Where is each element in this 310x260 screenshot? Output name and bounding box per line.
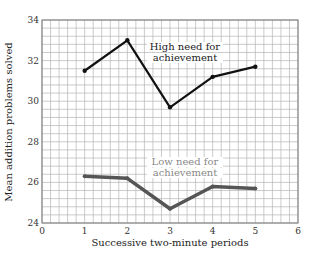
y-tick-label: 24 (28, 218, 40, 228)
series-label: achievement (153, 52, 218, 63)
x-tick-label: 3 (167, 226, 173, 236)
data-point (82, 69, 86, 73)
x-tick-label: 4 (210, 226, 216, 236)
data-point (211, 184, 215, 188)
data-point (125, 38, 129, 42)
x-tick-label: 6 (295, 226, 301, 236)
series-label: High need for (150, 41, 221, 52)
series-label: Low need for (152, 156, 219, 167)
y-tick-label: 34 (28, 15, 40, 25)
x-tick-label: 5 (252, 226, 258, 236)
data-point (253, 64, 257, 68)
data-point (168, 105, 172, 109)
y-tick-label: 28 (28, 137, 40, 147)
y-tick-label: 30 (28, 96, 40, 106)
y-tick-label: 26 (28, 177, 40, 187)
data-point (210, 75, 214, 79)
x-axis-label: Successive two-minute periods (91, 237, 248, 248)
line-chart: 0123456242628303234 High need forachieve… (0, 0, 310, 260)
series-label: achievement (153, 167, 218, 178)
x-tick-label: 0 (39, 226, 45, 236)
x-tick-label: 1 (82, 226, 88, 236)
y-tick-label: 32 (28, 56, 39, 66)
data-point (253, 186, 257, 190)
y-axis-label: Mean addition problems solved (3, 42, 14, 202)
data-point (83, 174, 87, 178)
x-tick-label: 2 (124, 226, 130, 236)
data-point (168, 207, 172, 211)
data-point (125, 176, 129, 180)
